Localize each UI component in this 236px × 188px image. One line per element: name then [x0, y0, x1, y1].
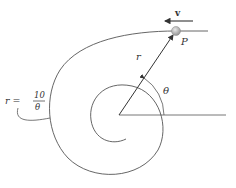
spiral-diagram: v P r θ r = 10 θ	[0, 0, 236, 188]
theta-arc	[144, 78, 164, 115]
equation-lhs: r =	[5, 95, 21, 106]
equation-numerator: 10	[34, 90, 45, 100]
velocity-label: v	[174, 8, 181, 18]
radius-vector	[119, 35, 173, 115]
particle-label: P	[180, 36, 188, 47]
equation-denominator: θ	[35, 102, 40, 112]
radius-label: r	[136, 51, 142, 62]
equation-leader	[17, 108, 50, 120]
spiral-curve	[50, 31, 208, 174]
theta-label: θ	[163, 85, 169, 96]
particle-p	[172, 27, 181, 36]
